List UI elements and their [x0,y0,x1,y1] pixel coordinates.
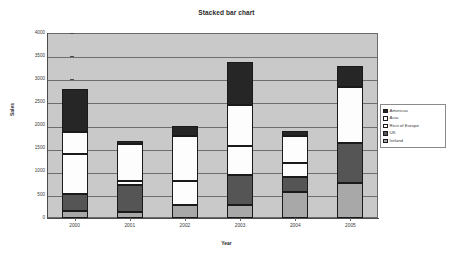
gridline [48,103,377,104]
x-axis-tick-label: 2004 [275,223,315,228]
x-axis-line [47,218,379,219]
bar-stack[interactable] [117,33,143,218]
bar-stack[interactable] [172,33,198,218]
x-axis-tick [75,218,76,221]
legend-item[interactable]: UK [383,130,443,138]
bar-segment[interactable] [172,136,198,181]
bar-segment[interactable] [172,126,198,135]
bar-stack[interactable] [337,33,363,218]
bar-segment[interactable] [227,205,253,218]
legend-swatch-icon [383,109,388,114]
legend-label: Asia [390,116,399,120]
bar-segment[interactable] [62,194,88,212]
x-axis-tick-label: 2001 [110,223,150,228]
x-axis-tick [295,218,296,221]
legend-swatch-icon [383,116,388,121]
y-axis-tick-label: 2000 [19,123,45,128]
x-axis-tick [185,218,186,221]
legend-swatch-icon [383,131,388,136]
legend-swatch-icon [383,124,388,129]
plot-area [47,33,378,218]
bar-segment[interactable] [62,132,88,153]
y-axis-tick-label: 0 [19,216,45,221]
bar-segment[interactable] [117,141,143,144]
x-axis-title: Year [0,240,453,246]
gridline [48,57,377,58]
bar-segment[interactable] [282,192,308,218]
bar-segment[interactable] [337,143,363,183]
bar-segment[interactable] [227,175,253,205]
chart-title: Stacked bar chart [0,9,453,16]
x-axis-tick-label: 2003 [220,223,260,228]
bar-segment[interactable] [282,136,308,162]
bar-stack[interactable] [227,33,253,218]
y-axis-tick-label: 1000 [19,169,45,174]
bar-segment[interactable] [172,205,198,218]
legend-label: Ireland [390,139,403,143]
bar-segment[interactable] [117,181,143,185]
bar-segment[interactable] [227,62,253,105]
legend-label: Rest of Europe [390,124,419,128]
gridline [48,80,377,81]
bar-segment[interactable] [337,87,363,143]
y-axis-title: Sales [9,103,15,116]
bar-segment[interactable] [227,105,253,146]
legend-swatch-icon [383,139,388,144]
bar-segment[interactable] [62,211,88,218]
legend-item[interactable]: Ireland [383,137,443,145]
x-axis-tick [130,218,131,221]
bar-segment[interactable] [282,177,308,191]
bar-segment[interactable] [337,183,363,218]
legend-label: Americas [390,109,408,113]
legend-item[interactable]: Asia [383,115,443,123]
chart-legend: AmericasAsiaRest of EuropeUKIreland [380,104,446,148]
gridline [48,150,377,151]
x-axis-tick-label: 2000 [55,223,95,228]
y-axis-tick-label: 3000 [19,77,45,82]
bar-segment[interactable] [282,163,308,178]
bar-segment[interactable] [117,185,143,211]
y-axis-tick-label: 2500 [19,100,45,105]
gridline [48,127,377,128]
y-axis-tick-label: 500 [19,193,45,198]
x-axis-tick-label: 2005 [330,223,370,228]
stacked-bar-chart: Stacked bar chart Sales Year 05001000150… [0,0,453,265]
legend-label: UK [390,131,396,135]
bar-segment[interactable] [337,66,363,87]
y-axis-line [47,33,48,219]
bar-segment[interactable] [62,89,88,132]
x-axis-tick [240,218,241,221]
bar-segment[interactable] [227,146,253,174]
legend-item[interactable]: Rest of Europe [383,122,443,130]
bar-segment[interactable] [282,131,308,136]
bar-stack[interactable] [282,33,308,218]
bar-segment[interactable] [62,154,88,194]
bar-segment[interactable] [117,144,143,181]
gridline [48,196,377,197]
y-axis-tick-label: 1500 [19,146,45,151]
bar-stack[interactable] [62,33,88,218]
gridline [48,173,377,174]
y-axis-tick [70,218,74,219]
y-axis-tick-label: 3500 [19,54,45,59]
x-axis-tick-label: 2002 [165,223,205,228]
x-axis-tick [350,218,351,221]
legend-item[interactable]: Americas [383,107,443,115]
bar-segment[interactable] [172,181,198,206]
y-axis-tick-label: 4000 [19,31,45,36]
